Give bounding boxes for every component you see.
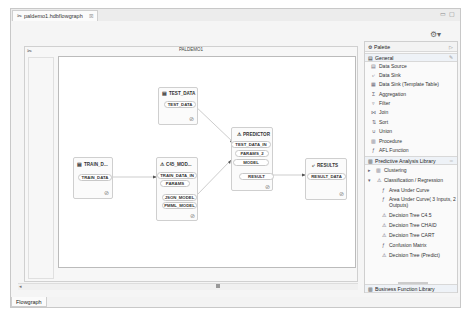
status-icon: ⊘ [265, 183, 270, 190]
port-params[interactable]: PARAMS [160, 180, 190, 187]
decision-tree-icon: ⚠ [380, 212, 387, 218]
editor-tab[interactable]: ✂ paldemo1.hdbflowgraph ☒ [12, 10, 98, 21]
flowgraph-title: PALDEMO1 [24, 46, 358, 54]
collapse-palette-icon[interactable]: ▷ [449, 44, 453, 50]
function-icon: ƒ [380, 242, 387, 248]
palette-item-decision-tree-c45[interactable]: ⚠Decision Tree C4.5 [380, 212, 456, 218]
node-title: ▤ TRAIN_D... [77, 162, 108, 167]
palette-item-decision-tree-predict[interactable]: ⚠Decision Tree (Predict) [380, 252, 456, 258]
library-icon: ▥ [368, 158, 373, 164]
palette-group-clustering[interactable]: ▸ ▥ Clustering [366, 167, 452, 173]
data-source-icon: ▤ [370, 63, 377, 69]
palette-item-decision-tree-chaid[interactable]: ⚠Decision Tree CHAID [380, 222, 456, 228]
node-title: ▤ TEST_DATA [162, 91, 195, 96]
pin-icon[interactable]: ✎ [449, 55, 453, 60]
function-icon: ƒ [380, 196, 387, 202]
decision-tree-icon: ⚠ [237, 132, 241, 137]
join-icon: ⋈ [370, 109, 377, 115]
palette-item-afl-function[interactable]: ƒAFL Function [370, 147, 456, 153]
palette-item-filter[interactable]: ▿Filter [370, 100, 456, 106]
port-pmml-model[interactable]: PMML_MODEL [162, 202, 197, 209]
library-icon: ▥ [368, 286, 373, 292]
node-title: ⤶ RESULTS [312, 163, 338, 168]
drawer-business-function-library[interactable]: ▥ Business Function Library [365, 284, 457, 293]
table-icon: ▤ [162, 91, 167, 96]
drawer-general[interactable]: ▤ General ✎ [365, 53, 457, 62]
node-test-data[interactable]: ▤ TEST_DATA TEST_DATA ⊘ [158, 87, 198, 125]
node-c45-model[interactable]: ⚠ C45_MOD... TRAIN_DATA_IN PARAMS JSON_M… [156, 157, 198, 221]
pin-icon[interactable]: ═ [450, 158, 453, 163]
palette-item-area-under-curve[interactable]: ƒArea Under Curve [380, 187, 456, 193]
palette-item-confusion-matrix[interactable]: ƒConfusion Matrix [380, 242, 456, 248]
table-icon: ▤ [77, 162, 82, 167]
palette-header[interactable]: ⚙ Palette ▷ [365, 42, 457, 52]
decision-tree-icon: ⚠ [380, 222, 387, 228]
collapse-icon[interactable]: ▾ [366, 177, 373, 183]
port-test-data[interactable]: TEST_DATA [164, 101, 196, 108]
filter-icon: ▿ [370, 100, 377, 106]
union-icon: ∪ [370, 128, 377, 134]
flowgraph-icon: ✂ [17, 13, 22, 19]
palette-item-area-under-curve-3[interactable]: ƒArea Under Curve( 3 Inputs, 2 Outputs) [380, 196, 456, 208]
node-title: ⚠ C45_MOD... [160, 162, 192, 167]
tab-flowgraph[interactable]: Flowgraph [11, 297, 47, 307]
port-params-2[interactable]: PARAMS_2 [235, 150, 269, 157]
port-train-data-in[interactable]: TRAIN_DATA_IN [157, 172, 197, 179]
drawer-predictive-analysis-library[interactable]: ▥ Predictive Analysis Library ═ [365, 156, 457, 165]
maximize-icon[interactable]: ▢ [449, 10, 455, 17]
port-json-model[interactable]: JSON_MODEL [162, 194, 197, 201]
port-result-data[interactable]: RESULT_DATA [307, 173, 346, 180]
port-result[interactable]: RESULT [239, 173, 274, 180]
data-sink-icon: ⤶ [312, 163, 315, 168]
function-icon: ƒ [370, 147, 377, 153]
palette-item-decision-tree-cart[interactable]: ⚠Decision Tree CART [380, 232, 456, 238]
editor-tab-label: paldemo1.hdbflowgraph [24, 13, 83, 19]
decision-tree-icon: ⚠ [380, 252, 387, 258]
palette-group-classification[interactable]: ▾ ⚠ Classification / Regression [366, 177, 452, 183]
palette-item-union[interactable]: ∪Union [370, 128, 456, 134]
palette-item-data-source[interactable]: ▤Data Source [370, 63, 456, 69]
palette-icon: ⚙ [368, 44, 372, 50]
status-icon: ⊘ [190, 212, 195, 219]
general-icon: ▤ [368, 55, 373, 61]
status-icon: ⊘ [189, 115, 194, 122]
port-test-data-in[interactable]: TEST_DATA_IN [231, 141, 271, 148]
port-model[interactable]: MODEL [233, 159, 269, 166]
node-results[interactable]: ⤶ RESULTS RESULT_DATA ⊘ [305, 158, 347, 200]
function-icon: ƒ [380, 187, 387, 193]
data-sink-icon: ⤶ [370, 72, 377, 78]
decision-tree-icon: ⚠ [375, 177, 382, 183]
palette-item-sort[interactable]: ⇅Sort [370, 119, 456, 125]
sort-icon: ⇅ [370, 119, 377, 125]
status-icon: ⊘ [339, 190, 344, 197]
sigma-icon: Σ [370, 91, 377, 97]
node-title: ⚠ PREDICTOR [237, 132, 270, 137]
scroll-left-icon[interactable]: ◂ [19, 283, 22, 289]
palette-item-aggregation[interactable]: ΣAggregation [370, 91, 456, 97]
template-table-icon: ▦ [370, 81, 377, 87]
minimize-icon[interactable]: ▭ [440, 10, 446, 17]
flowgraph-input-column [28, 57, 54, 279]
decision-tree-icon: ⚠ [160, 162, 164, 167]
folder-icon: ▥ [375, 167, 382, 173]
palette-item-procedure[interactable]: ▥Procedure [370, 138, 456, 144]
close-tab-icon[interactable]: ☒ [89, 13, 93, 19]
expand-icon[interactable]: ▸ [366, 167, 373, 173]
status-icon: ⊘ [104, 189, 109, 196]
node-predictor[interactable]: ⚠ PREDICTOR TEST_DATA_IN PARAMS_2 MODEL … [231, 127, 273, 191]
procedure-icon: ▥ [370, 138, 377, 144]
port-train-data[interactable]: TRAIN_DATA [78, 174, 112, 181]
horizontal-scrollbar[interactable] [18, 283, 358, 290]
decision-tree-icon: ⚠ [380, 232, 387, 238]
palette-item-data-sink-template[interactable]: ▦Data Sink (Template Table) [370, 81, 456, 87]
gear-menu-icon[interactable]: ⚙▾ [430, 30, 441, 39]
scrollbar-thumb[interactable] [216, 284, 220, 288]
palette-item-join[interactable]: ⋈Join [370, 109, 456, 115]
node-train-data[interactable]: ▤ TRAIN_D... TRAIN_DATA ⊘ [73, 157, 113, 199]
palette-item-data-sink[interactable]: ⤶Data Sink [370, 72, 456, 78]
